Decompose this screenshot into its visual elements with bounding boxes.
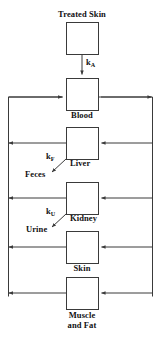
box-muscle-and-fat [66,277,98,309]
label-blood: Blood [54,111,110,120]
label-kidney: Kidney [70,214,118,223]
box-kidney [66,182,98,214]
label-treated-skin: Treated Skin [44,10,120,19]
rate-k-a-subscript: A [91,61,96,68]
label-muscle-and-fat: Muscle and Fat [48,311,116,330]
rate-k-f-subscript: F [51,155,55,162]
label-rate-k-u: kU [46,207,55,216]
label-rate-k-a: kA [86,58,95,67]
label-skin: Skin [54,264,110,273]
compartment-diagram: Treated Skin Blood Liver Kidney Skin Mus… [0,0,161,346]
box-skin [66,231,98,263]
label-liver: Liver [70,159,114,168]
box-liver [66,127,98,159]
box-treated-skin [66,22,98,54]
label-feces: Feces [25,170,45,179]
rate-k-u-subscript: U [51,210,56,217]
label-rate-k-f: kF [46,152,55,161]
label-urine: Urine [26,225,47,234]
box-blood [66,78,98,110]
label-muscle-and-fat-line2: and Fat [48,321,116,331]
